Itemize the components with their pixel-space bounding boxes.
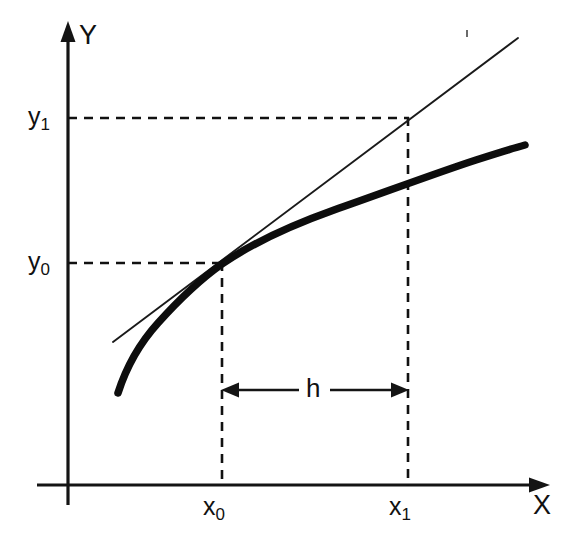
x-axis-label: X: [533, 492, 551, 519]
diagram-svg: [0, 0, 573, 550]
x0-label: x0: [203, 494, 225, 519]
y0-label-subscript: 0: [41, 260, 50, 279]
y-axis-arrowhead-icon: [61, 21, 76, 42]
scan-speck-artifact: [466, 30, 468, 37]
y-axis-label: Y: [79, 22, 97, 49]
x1-label-subscript: 1: [402, 505, 411, 524]
x1-label-base: x: [389, 492, 402, 520]
y1-label-subscript: 1: [41, 115, 50, 134]
y1-label: y1: [28, 104, 50, 129]
y0-label: y0: [28, 249, 50, 274]
h-dimension-left-arrowhead-icon: [221, 383, 239, 398]
h-dimension-label: h: [299, 375, 327, 401]
figure-canvas: Y X y1 y0 x0 x1 h: [0, 0, 573, 550]
y0-label-base: y: [28, 247, 41, 275]
x0-label-subscript: 0: [216, 505, 225, 524]
y1-label-base: y: [28, 102, 41, 130]
tangent-line: [113, 38, 518, 342]
h-dimension-right-arrowhead-icon: [391, 383, 409, 398]
function-curve: [118, 145, 525, 393]
x1-label: x1: [389, 494, 411, 519]
x0-label-base: x: [203, 492, 216, 520]
